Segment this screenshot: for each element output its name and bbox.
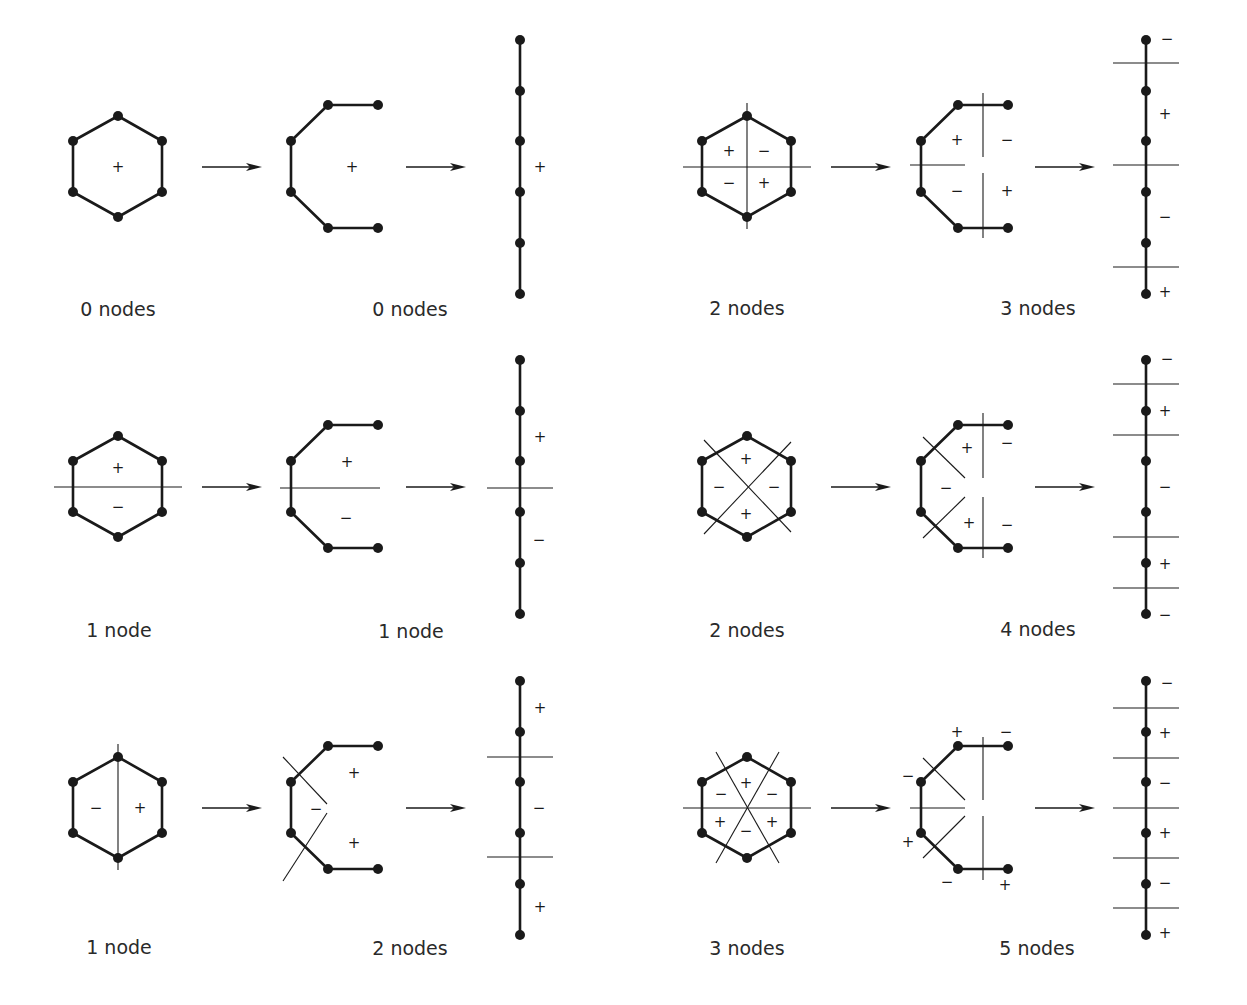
atom-dot [697, 456, 707, 466]
node-plane [923, 497, 965, 538]
phase-sign: + [902, 833, 915, 851]
caption-r2r-chain: 4 nodes [1000, 618, 1075, 640]
phase-sign: − [112, 498, 125, 516]
phase-sign: − [1001, 434, 1014, 452]
phase-sign: − [533, 531, 546, 549]
atom-dot [697, 507, 707, 517]
atom-dot [157, 136, 167, 146]
atom-dot [1141, 187, 1151, 197]
phase-sign: + [1159, 402, 1172, 420]
atom-dot [515, 238, 525, 248]
atom-dot [373, 100, 383, 110]
phase-sign: − [1001, 516, 1014, 534]
atom-dot [515, 35, 525, 45]
phase-sign: − [758, 142, 771, 160]
atom-dot [786, 187, 796, 197]
atom-dot [515, 456, 525, 466]
phase-sign: − [1159, 606, 1172, 624]
atom-dot [323, 420, 333, 430]
atom-dot [286, 828, 296, 838]
atom-dot [323, 741, 333, 751]
atom-dot [113, 752, 123, 762]
bond [921, 746, 958, 782]
atom-dot [697, 828, 707, 838]
linear-chain: +− [487, 355, 553, 619]
atom-dot [1141, 930, 1151, 940]
bond [118, 116, 162, 141]
atom-dot [515, 507, 525, 517]
atom-dot [515, 187, 525, 197]
phase-sign: + [951, 131, 964, 149]
arrow-icon [831, 163, 891, 171]
phase-sign: + [758, 174, 771, 192]
bond [118, 833, 162, 858]
phase-sign: − [940, 479, 953, 497]
arrow-icon [831, 483, 891, 491]
panel-r1-right: +−−++−−+−+−+ [683, 30, 1179, 301]
panel-r2-right: +−−++−−+−−+−+− [697, 350, 1179, 624]
phase-sign: + [1159, 924, 1172, 942]
phase-sign: + [1159, 105, 1172, 123]
open-chain: +−−+−+ [902, 723, 1013, 894]
bond [291, 746, 328, 782]
atom-dot [515, 727, 525, 737]
atom-dot [953, 543, 963, 553]
panel-r3-right: +−−+−++−−+−+−+−+−+ [683, 674, 1179, 942]
atom-dot [68, 828, 78, 838]
atom-dot [68, 456, 78, 466]
bond [291, 192, 328, 228]
atom-dot [1003, 223, 1013, 233]
atom-dot [1141, 828, 1151, 838]
atom-dot [157, 507, 167, 517]
phase-sign: − [533, 799, 546, 817]
phase-sign: + [534, 699, 547, 717]
atom-dot [113, 111, 123, 121]
atom-dot [1141, 406, 1151, 416]
bond [118, 436, 162, 461]
phase-sign: + [766, 813, 779, 831]
phase-sign: − [768, 478, 781, 496]
atom-dot [1003, 543, 1013, 553]
bond [73, 833, 118, 858]
linear-chain: −+−+− [1113, 350, 1179, 624]
phase-sign: + [112, 158, 125, 176]
atom-dot [515, 136, 525, 146]
bond [291, 833, 328, 869]
atom-dot [515, 828, 525, 838]
open-chain: +−+ [283, 741, 383, 881]
atom-dot [1003, 100, 1013, 110]
atom-dot [113, 853, 123, 863]
phase-sign: − [90, 799, 103, 817]
phase-sign: − [723, 174, 736, 192]
atom-dot [1003, 864, 1013, 874]
atom-dot [742, 111, 752, 121]
linear-chain: +−+ [487, 676, 553, 940]
phase-sign: + [134, 799, 147, 817]
bond [747, 757, 791, 782]
linear-chain: + [515, 35, 546, 299]
atom-dot [1003, 741, 1013, 751]
atom-dot [742, 431, 752, 441]
bond [291, 512, 328, 548]
caption-r1-hexagon: 0 nodes [80, 298, 155, 320]
atom-dot [786, 456, 796, 466]
atom-dot [1141, 777, 1151, 787]
atom-dot [68, 187, 78, 197]
atom-dot [786, 507, 796, 517]
atom-dot [697, 136, 707, 146]
atom-dot [515, 930, 525, 940]
arrow-icon [406, 483, 466, 491]
atom-dot [1141, 136, 1151, 146]
atom-dot [515, 406, 525, 416]
panel-r2-left: +−+−+− [54, 355, 553, 619]
atom-dot [113, 532, 123, 542]
phase-sign: + [534, 898, 547, 916]
atom-dot [515, 879, 525, 889]
atom-dot [373, 543, 383, 553]
phase-sign: + [1001, 182, 1014, 200]
atom-dot [786, 777, 796, 787]
hexagon-ring: +−−+−+ [683, 752, 811, 863]
phase-sign: − [941, 873, 954, 891]
open-chain: +−−+− [916, 413, 1013, 558]
atom-dot [742, 212, 752, 222]
